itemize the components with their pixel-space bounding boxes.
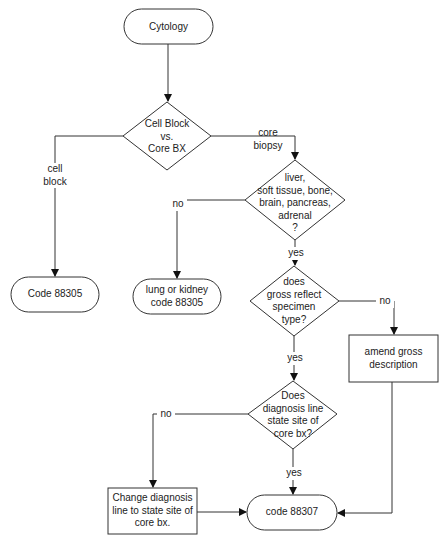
lung-kidney-label: lung or kidney code 88305 [133,284,221,309]
edge-amend-to-88307 [338,382,392,513]
edge-label-core-biopsy: core biopsy [250,127,286,152]
edge-label-diag-no: no [157,408,175,421]
cytology-label: Cytology [124,21,213,34]
edge-label-site-yes: yes [285,247,307,260]
diagnosis-decision-label: Does diagnosis line state site of core b… [250,390,336,440]
flowchart-canvas [0,0,447,542]
amend-gross-label: amend gross description [349,346,438,371]
site-decision-label: liver, soft tissue, bone, brain, pancrea… [250,172,340,235]
gross-decision-label: does gross reflect specimen type? [252,276,336,326]
edge-label-gross-no: no [376,295,394,308]
change-diagnosis-label: Change diagnosis line to state site of c… [108,492,197,530]
cellblock-decision-label: Cell Block vs. Core BX [127,118,207,156]
edge-cellblock-to-88305 [55,136,123,276]
edge-label-site-no: no [169,198,187,211]
edge-label-gross-yes: yes [284,352,306,365]
edge-diagnosis-no-to-change [153,414,248,487]
edge-label-diag-yes: yes [283,467,305,480]
edge-site-no-to-lung [177,200,245,278]
code-88307-label: code 88307 [247,506,337,519]
edge-label-cell-block: cell block [38,163,72,188]
code-88305-label: Code 88305 [11,288,99,301]
